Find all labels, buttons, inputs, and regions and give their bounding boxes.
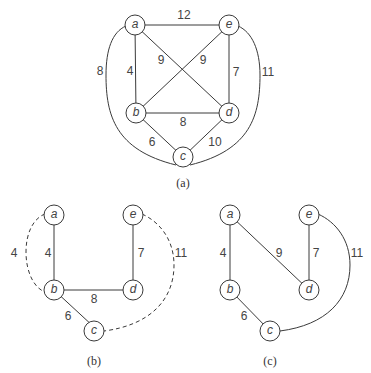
caption-a: (a) xyxy=(176,176,189,190)
weight-e-d: 7 xyxy=(138,246,145,260)
weight-a-b: 4 xyxy=(45,246,52,260)
svg-text:e: e xyxy=(306,207,313,221)
node-e: e xyxy=(123,205,143,225)
weight-b-c: 6 xyxy=(149,135,156,149)
node-c: c xyxy=(260,321,280,341)
node-b: b xyxy=(220,280,240,300)
weight-e-c-dashed: 11 xyxy=(175,246,188,260)
svg-text:c: c xyxy=(91,323,97,337)
edge-a-d xyxy=(230,215,309,290)
node-a: a xyxy=(125,15,145,35)
node-e: e xyxy=(299,205,319,225)
node-c: c xyxy=(84,321,104,341)
svg-text:e: e xyxy=(226,17,233,31)
svg-text:e: e xyxy=(130,207,137,221)
weight-a-b-dashed: 4 xyxy=(11,246,18,260)
edge-a-c xyxy=(106,26,176,165)
node-c: c xyxy=(173,147,193,167)
graph-figure: 12 4 9 9 7 8 6 10 8 11 a e b d c (a) 4 4… xyxy=(0,0,371,373)
weight-e-c: 11 xyxy=(262,65,275,79)
svg-text:b: b xyxy=(227,282,234,296)
node-d: d xyxy=(299,280,319,300)
graph-a: 12 4 9 9 7 8 6 10 8 11 a e b d c (a) xyxy=(97,8,275,190)
edge-e-c-dashed xyxy=(104,214,174,331)
svg-text:a: a xyxy=(51,207,58,221)
graph-b: 4 4 7 8 6 11 a e b d c (b) xyxy=(11,205,188,368)
svg-text:c: c xyxy=(267,323,273,337)
graph-c: 4 9 7 6 11 a e b d c (c) xyxy=(220,205,364,368)
caption-b: (b) xyxy=(87,354,101,368)
node-e: e xyxy=(219,15,239,35)
edge-a-b-dashed xyxy=(26,214,45,292)
svg-text:d: d xyxy=(226,105,233,119)
weight-a-c: 8 xyxy=(97,64,104,78)
node-b: b xyxy=(126,103,146,123)
weight-e-d: 7 xyxy=(313,246,320,260)
weight-a-b: 4 xyxy=(127,64,134,78)
caption-c: (c) xyxy=(263,354,276,368)
svg-text:b: b xyxy=(51,282,58,296)
node-a: a xyxy=(220,205,240,225)
weight-b-c: 6 xyxy=(241,309,248,323)
node-d: d xyxy=(123,280,143,300)
weight-b-d: 8 xyxy=(180,115,187,129)
weight-b-d: 8 xyxy=(91,292,98,306)
weight-a-d: 9 xyxy=(276,246,283,260)
weight-a-e: 12 xyxy=(177,8,191,22)
svg-text:d: d xyxy=(130,282,137,296)
svg-text:a: a xyxy=(132,17,139,31)
edge-a-b xyxy=(135,25,136,113)
weight-e-d: 7 xyxy=(233,65,240,79)
weight-b-c: 6 xyxy=(65,309,72,323)
weight-a-d: 9 xyxy=(158,53,165,67)
weight-e-c: 11 xyxy=(351,246,364,260)
svg-text:c: c xyxy=(180,149,186,163)
node-d: d xyxy=(219,103,239,123)
node-b: b xyxy=(44,280,64,300)
edge-e-c xyxy=(190,26,260,165)
svg-text:a: a xyxy=(227,207,234,221)
weight-a-b: 4 xyxy=(220,246,227,260)
svg-text:d: d xyxy=(306,282,313,296)
node-a: a xyxy=(44,205,64,225)
weight-d-c: 10 xyxy=(208,135,222,149)
svg-text:b: b xyxy=(133,105,140,119)
weight-e-b: 9 xyxy=(200,53,207,67)
